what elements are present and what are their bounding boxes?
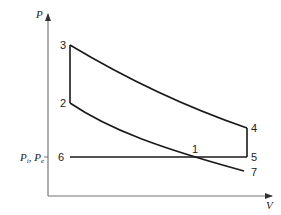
x-axis-label: V xyxy=(266,199,274,211)
intake-exhaust-pressure-label: Pi, Pe xyxy=(19,151,44,165)
point-label-5: 5 xyxy=(251,151,257,163)
point-label-4: 4 xyxy=(251,122,257,134)
curve-2-1-7 xyxy=(70,103,244,171)
curve-3-4 xyxy=(70,45,247,128)
point-label-2: 2 xyxy=(60,97,66,109)
point-label-6: 6 xyxy=(58,151,64,163)
y-axis-label: P xyxy=(35,8,43,20)
pv-diagram: P V Pi, Pe 3 2 6 1 4 5 7 xyxy=(0,0,281,215)
point-label-3: 3 xyxy=(60,39,66,51)
point-label-7: 7 xyxy=(251,166,257,178)
point-label-1: 1 xyxy=(192,143,198,155)
